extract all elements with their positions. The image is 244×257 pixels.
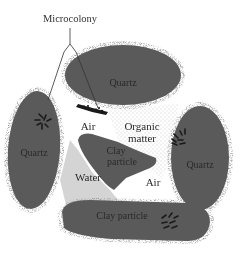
soil-microhabitat-diagram: Quartz Quartz Quartz Clay particle Clay … xyxy=(0,0,244,257)
air-right-label: Air xyxy=(146,176,161,188)
water-label: Water xyxy=(75,171,101,183)
quartz-left-label: Quartz xyxy=(20,147,48,158)
air-top-label: Air xyxy=(81,120,96,132)
quartz-right-label: Quartz xyxy=(186,159,214,170)
clay-center-label-line1: Clay xyxy=(107,145,126,156)
quartz-right-particle: Quartz xyxy=(171,106,229,210)
microcolony-label: Microcolony xyxy=(43,13,98,24)
clay-bottom-particle: Clay particle xyxy=(62,200,210,241)
clay-bottom-label: Clay particle xyxy=(96,210,148,221)
quartz-top-label: Quartz xyxy=(109,77,137,88)
quartz-top-particle: Quartz xyxy=(65,45,181,105)
clay-center-label-line2: particle xyxy=(107,156,138,167)
organic-matter-label-line1: Organic xyxy=(124,120,159,132)
organic-matter-label-line2: matter xyxy=(128,132,156,144)
